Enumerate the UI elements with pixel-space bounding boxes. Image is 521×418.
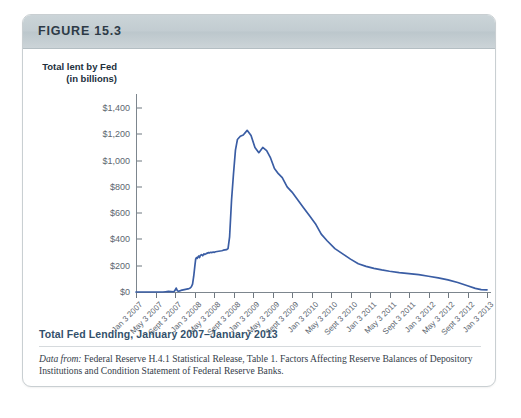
source-divider [39, 346, 481, 347]
source-lead: Data from: [39, 353, 82, 364]
chart-plot-area: Total lent by Fed (in billions) $0$200$4… [23, 49, 496, 321]
figure-card: FIGURE 15.3 Total lent by Fed (in billio… [22, 14, 496, 387]
figure-number-label: FIGURE 15.3 [38, 24, 122, 38]
series-canvas [23, 49, 496, 321]
figure-source: Data from: Federal Reserve H.4.1 Statist… [39, 353, 483, 378]
source-text: Federal Reserve H.4.1 Statistical Releas… [39, 353, 472, 376]
series-line-total-fed-lending [136, 130, 487, 292]
figure-caption: Total Fed Lending, January 2007–January … [39, 328, 278, 340]
